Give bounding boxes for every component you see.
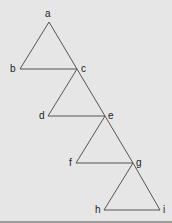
edge-a-b xyxy=(20,22,49,69)
node-label-d: d xyxy=(39,110,45,121)
edge-c-d xyxy=(48,69,77,116)
triangle-tree-diagram: abcdefghi xyxy=(0,0,172,223)
node-label-g: g xyxy=(136,157,142,168)
node-label-f: f xyxy=(69,157,72,168)
node-label-b: b xyxy=(10,63,16,74)
node-label-c: c xyxy=(81,63,86,74)
edge-a-c xyxy=(49,22,77,69)
edge-c-e xyxy=(77,69,105,116)
edge-e-f xyxy=(76,116,105,163)
node-label-i: i xyxy=(163,204,165,215)
edge-g-h xyxy=(104,163,133,210)
node-label-h: h xyxy=(95,204,101,215)
diagram-canvas: abcdefghi xyxy=(0,0,172,223)
edge-g-i xyxy=(133,163,160,210)
node-labels: abcdefghi xyxy=(10,8,165,215)
node-label-a: a xyxy=(45,8,51,19)
node-label-e: e xyxy=(108,110,114,121)
edge-e-g xyxy=(105,116,133,163)
